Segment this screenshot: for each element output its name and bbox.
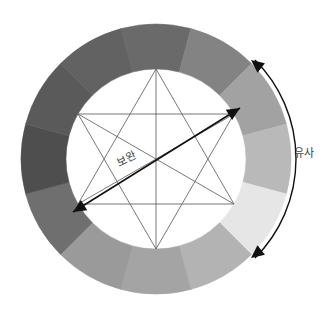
complement-arrow-line xyxy=(73,108,240,212)
hexagram-star xyxy=(78,69,234,249)
segment-top xyxy=(121,24,191,72)
segment-left xyxy=(21,124,69,194)
color-wheel-diagram xyxy=(0,0,334,316)
segment-right xyxy=(243,124,291,194)
complement-arrow xyxy=(73,108,240,212)
segment-bottom xyxy=(121,246,191,294)
analogous-label: 유사 xyxy=(294,144,314,160)
